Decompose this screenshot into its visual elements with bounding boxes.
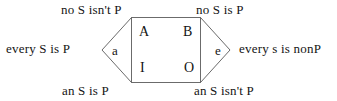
label-an-s-is-p: an S is P [62,83,109,98]
diagram-canvas: no S isn't P no S is P every S is P ever… [0,0,337,101]
label-every-s-is-p: every S is P [6,41,70,56]
corner-letter-a: A [139,24,149,39]
label-every-s-is-nonp: every s is nonP [239,41,321,56]
corner-letter-b: B [183,24,192,39]
corner-letter-i: I [140,60,145,75]
apex-letter-e: e [215,44,221,58]
apex-letter-a: a [112,44,118,58]
label-an-s-isnt-p: an S isn't P [194,83,254,98]
label-no-s-is-p: no S is P [196,2,244,17]
corner-letter-o: O [184,60,194,75]
label-no-s-isnt-p: no S isn't P [61,2,122,17]
